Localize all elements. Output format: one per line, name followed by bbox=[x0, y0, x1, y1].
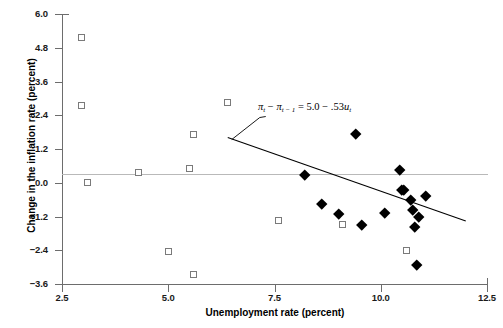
data-point-filled-diamonds-11 bbox=[409, 221, 420, 232]
data-point-open-squares-9 bbox=[275, 217, 282, 224]
x-tick-label-0: 2.5 bbox=[39, 292, 85, 303]
y-axis-spine bbox=[62, 14, 63, 285]
data-point-filled-diamonds-13 bbox=[420, 190, 431, 201]
trendline-layer bbox=[0, 0, 503, 328]
data-point-filled-diamonds-2 bbox=[350, 128, 361, 139]
annotation-leader-line bbox=[232, 117, 266, 140]
data-point-open-squares-1 bbox=[78, 102, 85, 109]
x-tick-label-4: 12.5 bbox=[464, 292, 503, 303]
y-tick-6 bbox=[55, 217, 62, 218]
data-point-open-squares-5 bbox=[190, 131, 197, 138]
x-tick-label-2: 7.5 bbox=[252, 292, 298, 303]
data-point-filled-diamonds-1 bbox=[316, 199, 327, 210]
data-point-filled-diamonds-0 bbox=[299, 169, 310, 180]
x-axis-title: Unemployment rate (percent) bbox=[62, 307, 488, 318]
data-point-open-squares-4 bbox=[186, 165, 193, 172]
data-point-filled-diamonds-9 bbox=[405, 194, 416, 205]
data-point-open-squares-11 bbox=[403, 247, 410, 254]
zero-reference-line bbox=[62, 174, 488, 175]
x-tick-4 bbox=[487, 285, 488, 292]
data-point-filled-diamonds-5 bbox=[380, 207, 391, 218]
y-axis-top-cap bbox=[62, 14, 69, 15]
y-tick-7 bbox=[55, 250, 62, 251]
data-point-open-squares-10 bbox=[339, 221, 346, 228]
x-tick-0 bbox=[62, 285, 63, 292]
data-point-filled-diamonds-14 bbox=[412, 259, 423, 270]
y-tick-5 bbox=[55, 183, 62, 184]
regression-trendline bbox=[228, 138, 466, 221]
x-tick-2 bbox=[275, 285, 276, 292]
x-tick-1 bbox=[168, 285, 169, 292]
data-point-open-squares-3 bbox=[135, 169, 142, 176]
x-tick-label-3: 10.0 bbox=[358, 292, 404, 303]
data-point-filled-diamonds-12 bbox=[414, 211, 425, 222]
x-tick-label-1: 5.0 bbox=[145, 292, 191, 303]
data-point-filled-diamonds-4 bbox=[356, 220, 367, 231]
y-tick-0 bbox=[55, 14, 62, 15]
regression-equation-annotation: πt − πt − 1 = 5.0 − .53ut bbox=[258, 101, 351, 112]
x-tick-3 bbox=[381, 285, 382, 292]
y-tick-1 bbox=[55, 48, 62, 49]
y-tick-4 bbox=[55, 149, 62, 150]
data-point-open-squares-0 bbox=[78, 34, 85, 41]
y-tick-2 bbox=[55, 82, 62, 83]
data-point-open-squares-7 bbox=[165, 248, 172, 255]
y-tick-label-8: −3.6 bbox=[8, 278, 48, 289]
x-axis-right-cap bbox=[487, 278, 488, 285]
y-tick-8 bbox=[55, 284, 62, 285]
y-tick-label-0: 6.0 bbox=[8, 8, 48, 19]
data-point-open-squares-6 bbox=[224, 99, 231, 106]
data-point-open-squares-8 bbox=[190, 271, 197, 278]
data-point-filled-diamonds-3 bbox=[333, 208, 344, 219]
data-point-open-squares-2 bbox=[84, 179, 91, 186]
scatter-plot-figure: 6.04.83.62.41.20.0−1.2−2.4−3.6 2.55.07.5… bbox=[0, 0, 503, 328]
y-axis-title: Change in the inflation rate (percent) bbox=[26, 31, 37, 261]
y-tick-3 bbox=[55, 115, 62, 116]
